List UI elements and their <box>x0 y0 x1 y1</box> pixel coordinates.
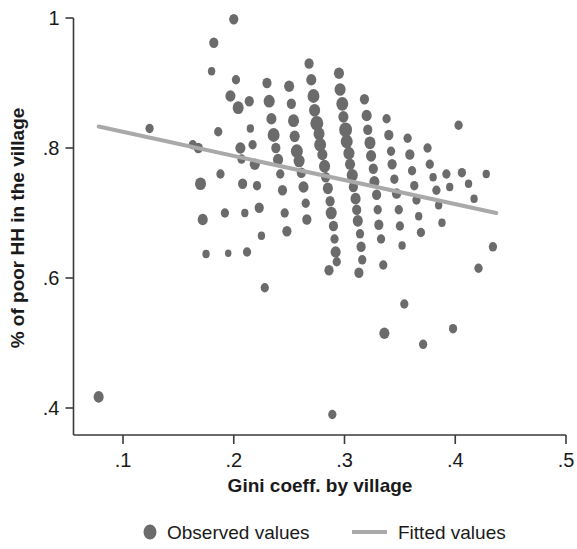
y-tick-label: .6 <box>43 267 60 289</box>
scatter-point <box>319 160 330 173</box>
scatter-point <box>352 204 361 215</box>
scatter-point <box>323 182 333 194</box>
y-tick-label: .4 <box>43 397 60 419</box>
scatter-point <box>358 255 366 265</box>
x-tick-label: .1 <box>115 449 132 471</box>
scatter-point <box>216 169 224 179</box>
scatter-point <box>243 247 251 257</box>
scatter-point <box>474 263 482 273</box>
scatter-point <box>261 283 269 293</box>
scatter-point <box>372 190 381 201</box>
scatter-point <box>390 174 398 184</box>
scatter-point <box>415 212 422 220</box>
x-tick-label: .3 <box>336 449 353 471</box>
scatter-point <box>465 180 472 188</box>
scatter-point <box>290 130 300 142</box>
scatter-point <box>229 14 238 25</box>
scatter-point <box>326 196 335 207</box>
scatter-point <box>419 340 427 350</box>
scatter-point <box>233 101 244 114</box>
x-tick-label: .5 <box>558 449 575 471</box>
scatter-point <box>247 124 254 132</box>
scatter-point <box>195 177 206 190</box>
scatter-point <box>328 410 336 420</box>
scatter-point <box>382 114 390 124</box>
scatter-point <box>253 181 261 191</box>
scatter-point <box>356 229 364 239</box>
scatter-point <box>432 185 440 195</box>
scatter-point <box>366 150 376 162</box>
scatter-point <box>423 143 431 153</box>
scatter-point <box>387 146 395 156</box>
scatter-point <box>309 104 320 117</box>
scatter-point <box>354 268 363 279</box>
scatter-point <box>338 111 348 123</box>
scatter-point <box>271 143 280 154</box>
scatter-point <box>408 166 416 176</box>
scatter-point <box>379 260 387 270</box>
scatter-point <box>403 133 411 143</box>
scatter-point <box>214 127 222 137</box>
legend-observed-label: Observed values <box>167 522 310 543</box>
y-tick-label: .8 <box>43 137 60 159</box>
scatter-point <box>489 242 497 252</box>
scatter-point <box>324 265 333 276</box>
scatter-point <box>225 90 235 102</box>
scatter-point <box>330 234 338 244</box>
scatter-point <box>255 203 264 214</box>
scatter-point <box>362 110 372 122</box>
scatter-point <box>302 198 310 208</box>
scatter-point <box>341 135 353 149</box>
scatter-point <box>326 207 337 220</box>
scatter-point <box>458 168 466 178</box>
scatter-point <box>369 164 378 175</box>
scatter-point <box>235 142 245 154</box>
scatter-point <box>262 78 271 89</box>
legend-fitted-label: Fitted values <box>398 522 506 543</box>
scatter-point <box>400 299 408 309</box>
scatter-point <box>209 37 218 48</box>
scatter-point <box>379 327 389 339</box>
scatter-point <box>94 391 104 403</box>
scatter-point <box>363 125 372 136</box>
legend-observed-marker-icon <box>144 525 157 540</box>
scatter-point <box>278 185 287 196</box>
scatter-point <box>364 136 375 149</box>
scatter-chart-figure: .4.6.81 .1.2.3.4.5 Gini coeff. by villag… <box>0 0 577 549</box>
scatter-point <box>276 169 284 179</box>
scatter-point <box>374 219 383 230</box>
x-axis-title: Gini coeff. by village <box>228 475 413 496</box>
scatter-point <box>221 208 229 218</box>
scatter-point <box>410 181 418 191</box>
scatter-point <box>329 221 338 232</box>
scatter-point <box>238 178 247 189</box>
scatter-point <box>304 58 313 69</box>
scatter-point <box>282 226 291 237</box>
scatter-point <box>306 74 316 86</box>
scatter-point <box>360 94 369 105</box>
scatter-point <box>483 170 490 178</box>
scatter-point <box>281 208 289 218</box>
scatter-point <box>198 214 208 226</box>
x-tick-label: .2 <box>225 449 242 471</box>
scatter-point <box>202 250 209 258</box>
scatter-point <box>357 242 366 253</box>
scatter-point <box>405 149 414 160</box>
scatter-point <box>258 232 265 240</box>
scatter-point <box>308 89 320 103</box>
scatter-point <box>449 324 457 334</box>
scatter-point <box>225 250 231 257</box>
scatter-point <box>208 67 215 75</box>
scatter-point <box>442 169 450 179</box>
scatter-point <box>351 193 361 205</box>
scatter-point <box>426 159 434 169</box>
scatter-point <box>417 228 425 238</box>
scatter-point <box>470 194 477 202</box>
scatter-point <box>266 113 276 125</box>
chart-svg: .4.6.81 .1.2.3.4.5 Gini coeff. by villag… <box>0 0 577 549</box>
scatter-point <box>232 75 240 85</box>
scatter-point <box>335 83 346 96</box>
scatter-point <box>438 219 445 227</box>
scatter-point <box>241 209 248 217</box>
x-tick-label: .4 <box>447 449 464 471</box>
